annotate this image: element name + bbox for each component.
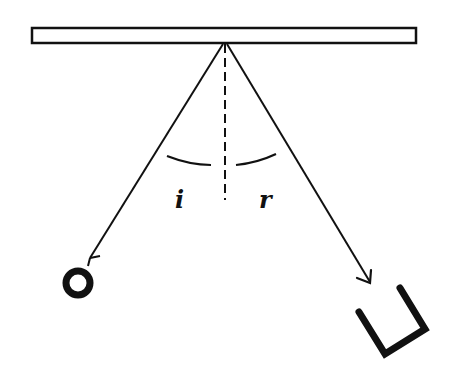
incident-ray — [90, 44, 223, 258]
incidence-angle-arc — [167, 156, 211, 165]
source-ring — [66, 271, 90, 295]
mirror — [32, 28, 416, 43]
reflection-angle-arc — [236, 154, 276, 165]
diagram-canvas — [0, 0, 455, 380]
receiver-u-shape — [359, 288, 425, 354]
reflection-angle-label: r — [259, 188, 272, 212]
incidence-angle-label: i — [175, 188, 184, 212]
reflection-diagram: i r — [0, 0, 455, 380]
